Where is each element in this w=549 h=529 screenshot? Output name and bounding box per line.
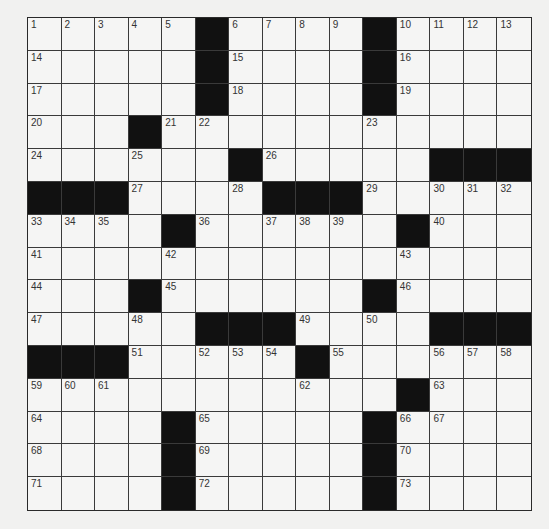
- grid-cell[interactable]: [296, 116, 330, 149]
- grid-cell[interactable]: [464, 84, 498, 117]
- grid-cell[interactable]: [430, 51, 464, 84]
- grid-cell[interactable]: 47: [28, 313, 62, 346]
- grid-cell[interactable]: 5: [162, 18, 196, 51]
- grid-cell[interactable]: [430, 84, 464, 117]
- grid-cell[interactable]: [263, 477, 297, 510]
- grid-cell[interactable]: [196, 280, 230, 313]
- grid-cell[interactable]: [464, 215, 498, 248]
- grid-cell[interactable]: [296, 51, 330, 84]
- grid-cell[interactable]: [296, 248, 330, 281]
- grid-cell[interactable]: [95, 313, 129, 346]
- grid-cell[interactable]: [62, 116, 96, 149]
- grid-cell[interactable]: [162, 313, 196, 346]
- grid-cell[interactable]: [263, 444, 297, 477]
- grid-cell[interactable]: [263, 280, 297, 313]
- grid-cell[interactable]: 34: [62, 215, 96, 248]
- grid-cell[interactable]: 31: [464, 182, 498, 215]
- grid-cell[interactable]: [62, 412, 96, 445]
- grid-cell[interactable]: [330, 84, 364, 117]
- grid-cell[interactable]: 49: [296, 313, 330, 346]
- grid-cell[interactable]: [229, 215, 263, 248]
- grid-cell[interactable]: 24: [28, 149, 62, 182]
- grid-cell[interactable]: 15: [229, 51, 263, 84]
- grid-cell[interactable]: 23: [363, 116, 397, 149]
- grid-cell[interactable]: [497, 412, 531, 445]
- grid-cell[interactable]: [397, 182, 431, 215]
- grid-cell[interactable]: [62, 444, 96, 477]
- grid-cell[interactable]: [95, 444, 129, 477]
- grid-cell[interactable]: [162, 379, 196, 412]
- grid-cell[interactable]: [430, 280, 464, 313]
- grid-cell[interactable]: 69: [196, 444, 230, 477]
- grid-cell[interactable]: [296, 280, 330, 313]
- grid-cell[interactable]: 28: [229, 182, 263, 215]
- grid-cell[interactable]: 50: [363, 313, 397, 346]
- grid-cell[interactable]: [363, 379, 397, 412]
- grid-cell[interactable]: 19: [397, 84, 431, 117]
- grid-cell[interactable]: [363, 346, 397, 379]
- grid-cell[interactable]: [464, 280, 498, 313]
- grid-cell[interactable]: [263, 248, 297, 281]
- grid-cell[interactable]: [464, 116, 498, 149]
- grid-cell[interactable]: [95, 412, 129, 445]
- grid-cell[interactable]: [497, 51, 531, 84]
- grid-cell[interactable]: 73: [397, 477, 431, 510]
- grid-cell[interactable]: [497, 215, 531, 248]
- grid-cell[interactable]: [296, 444, 330, 477]
- grid-cell[interactable]: [430, 116, 464, 149]
- grid-cell[interactable]: 1: [28, 18, 62, 51]
- grid-cell[interactable]: 26: [263, 149, 297, 182]
- grid-cell[interactable]: [296, 149, 330, 182]
- grid-cell[interactable]: [162, 182, 196, 215]
- grid-cell[interactable]: 27: [129, 182, 163, 215]
- grid-cell[interactable]: [330, 444, 364, 477]
- grid-cell[interactable]: 25: [129, 149, 163, 182]
- grid-cell[interactable]: 36: [196, 215, 230, 248]
- grid-cell[interactable]: 40: [430, 215, 464, 248]
- grid-cell[interactable]: 65: [196, 412, 230, 445]
- grid-cell[interactable]: [296, 412, 330, 445]
- grid-cell[interactable]: [363, 215, 397, 248]
- grid-cell[interactable]: [330, 477, 364, 510]
- grid-cell[interactable]: [263, 84, 297, 117]
- grid-cell[interactable]: [330, 280, 364, 313]
- grid-cell[interactable]: [497, 248, 531, 281]
- grid-cell[interactable]: [397, 116, 431, 149]
- grid-cell[interactable]: 17: [28, 84, 62, 117]
- grid-cell[interactable]: [162, 149, 196, 182]
- grid-cell[interactable]: [229, 116, 263, 149]
- grid-cell[interactable]: [296, 477, 330, 510]
- grid-cell[interactable]: [62, 280, 96, 313]
- grid-cell[interactable]: 14: [28, 51, 62, 84]
- grid-cell[interactable]: [330, 248, 364, 281]
- grid-cell[interactable]: [162, 84, 196, 117]
- grid-cell[interactable]: 35: [95, 215, 129, 248]
- grid-cell[interactable]: 10: [397, 18, 431, 51]
- grid-cell[interactable]: 22: [196, 116, 230, 149]
- grid-cell[interactable]: [95, 149, 129, 182]
- grid-cell[interactable]: [330, 412, 364, 445]
- grid-cell[interactable]: [497, 444, 531, 477]
- grid-cell[interactable]: 6: [229, 18, 263, 51]
- grid-cell[interactable]: 64: [28, 412, 62, 445]
- grid-cell[interactable]: 68: [28, 444, 62, 477]
- grid-cell[interactable]: 67: [430, 412, 464, 445]
- grid-cell[interactable]: [95, 116, 129, 149]
- grid-cell[interactable]: [464, 477, 498, 510]
- grid-cell[interactable]: [129, 412, 163, 445]
- grid-cell[interactable]: 41: [28, 248, 62, 281]
- grid-cell[interactable]: [330, 379, 364, 412]
- grid-cell[interactable]: 38: [296, 215, 330, 248]
- grid-cell[interactable]: [95, 51, 129, 84]
- grid-cell[interactable]: 4: [129, 18, 163, 51]
- grid-cell[interactable]: [229, 280, 263, 313]
- grid-cell[interactable]: [95, 477, 129, 510]
- grid-cell[interactable]: [430, 444, 464, 477]
- grid-cell[interactable]: 8: [296, 18, 330, 51]
- grid-cell[interactable]: [464, 444, 498, 477]
- grid-cell[interactable]: [497, 280, 531, 313]
- grid-cell[interactable]: 3: [95, 18, 129, 51]
- grid-cell[interactable]: 29: [363, 182, 397, 215]
- grid-cell[interactable]: 20: [28, 116, 62, 149]
- grid-cell[interactable]: 46: [397, 280, 431, 313]
